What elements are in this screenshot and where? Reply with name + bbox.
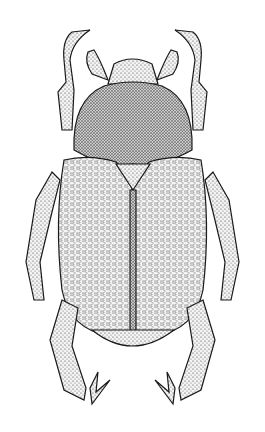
head bbox=[108, 59, 158, 84]
pronotum bbox=[74, 82, 192, 165]
pygidium bbox=[92, 330, 174, 346]
elytral-suture bbox=[130, 190, 136, 336]
beetle-body bbox=[26, 30, 239, 404]
beetle-illustration bbox=[0, 0, 265, 432]
beetle-drawing bbox=[0, 0, 265, 432]
